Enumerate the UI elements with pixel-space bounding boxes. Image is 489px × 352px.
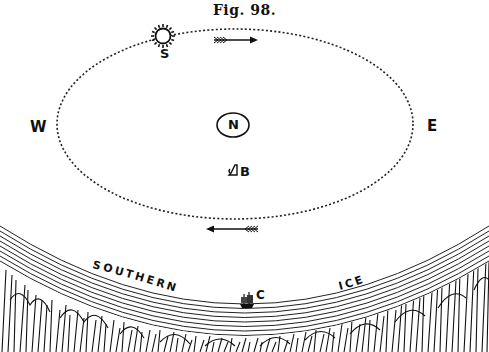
arrow-right-icon xyxy=(214,37,258,44)
ship-b-icon xyxy=(229,165,237,175)
ship-c-icon xyxy=(240,292,254,308)
ice-label-southern: SOUTHERN xyxy=(91,258,180,295)
arrow-left-icon xyxy=(206,226,258,233)
ship-c-label: C xyxy=(256,289,265,301)
ship-b-label: B xyxy=(240,165,250,178)
sun-icon xyxy=(151,24,175,48)
compass-east-label: E xyxy=(427,119,437,134)
compass-west-label: W xyxy=(30,120,47,135)
pole-label: N xyxy=(228,118,239,131)
fig-98-diagram: Fig. 98. xyxy=(0,0,489,352)
sun-label: S xyxy=(160,47,169,60)
ice-label-ice: ICE xyxy=(337,272,366,292)
